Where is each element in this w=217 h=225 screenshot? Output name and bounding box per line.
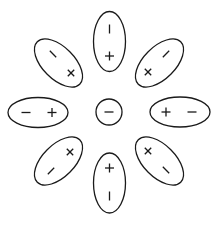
ellipse-upper-left	[26, 30, 91, 95]
ellipse-outline	[26, 128, 91, 193]
center-circle	[96, 99, 122, 125]
ellipse-lower-right	[127, 128, 192, 193]
diagram-layer	[8, 12, 210, 214]
cross-symbol	[67, 149, 73, 155]
ellipse-outline	[127, 30, 192, 95]
ellipse-outline	[127, 128, 192, 193]
vbar-symbol	[48, 168, 54, 174]
ellipse-outline	[150, 97, 210, 127]
ellipse-top	[94, 12, 126, 72]
cross-symbol	[145, 148, 151, 154]
ellipse-bottom	[94, 153, 126, 213]
vbar-symbol	[163, 167, 169, 173]
vbar-symbol	[50, 51, 56, 57]
ellipse-outline	[26, 30, 91, 95]
radial-ellipse-diagram	[0, 0, 217, 225]
cross-symbol	[68, 70, 74, 76]
plus-symbol	[105, 52, 114, 61]
ellipse-right	[150, 97, 210, 127]
ellipse-outline	[94, 153, 126, 213]
cross-symbol	[145, 69, 151, 75]
plus-symbol	[48, 108, 57, 117]
ellipse-upper-right	[127, 30, 192, 95]
plus-symbol	[162, 108, 171, 117]
vbar-symbol	[163, 51, 169, 57]
ellipse-lower-left	[26, 128, 91, 193]
ellipse-outline	[8, 98, 68, 128]
ellipse-outline	[94, 12, 126, 72]
plus-symbol	[105, 164, 114, 173]
ellipse-left	[8, 98, 68, 128]
